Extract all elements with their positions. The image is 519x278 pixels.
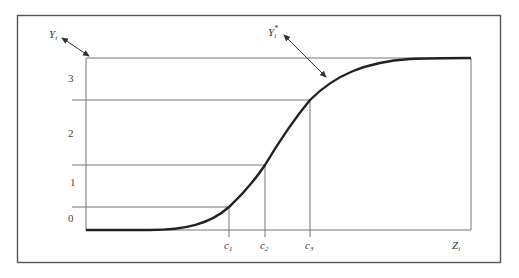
latent-label: Yi* <box>268 24 278 40</box>
y-tick-2: 2 <box>68 127 74 139</box>
y-axis-label: Yi <box>49 28 57 42</box>
y-tick-1: 1 <box>70 176 76 188</box>
latent-curve <box>86 58 471 230</box>
x-axis-label: Zi <box>452 239 460 253</box>
threshold-label-c2: c2 <box>260 239 269 253</box>
y-tick-3: 3 <box>68 72 74 84</box>
threshold-diagram: Yi Yi* Zi 3 2 1 0 c1 c2 c3 <box>0 0 519 278</box>
outer-frame <box>18 16 501 263</box>
threshold-label-c3: c3 <box>305 239 314 253</box>
threshold-label-c1: c1 <box>224 239 232 253</box>
latent-label-arrow <box>284 35 326 77</box>
y-label-arrow <box>62 38 89 56</box>
y-tick-0: 0 <box>68 212 74 224</box>
